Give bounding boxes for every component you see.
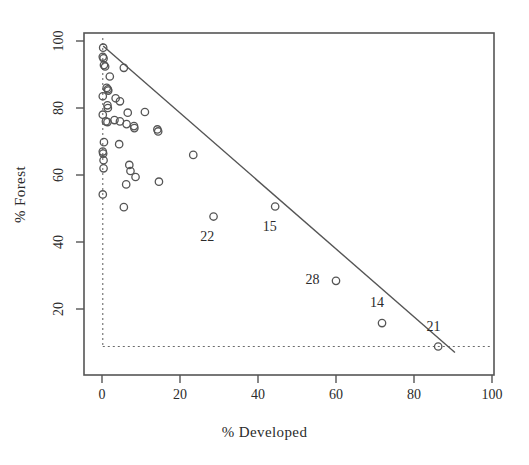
point-label-21: 21 <box>427 319 441 335</box>
point-label-22: 22 <box>200 229 214 245</box>
point-label-14: 14 <box>370 295 384 311</box>
y-tick-label-20: 20 <box>51 296 67 322</box>
x-tick-label-0: 0 <box>99 387 106 403</box>
y-tick-label-100: 100 <box>51 28 67 54</box>
y-tick-label-60: 60 <box>51 162 67 188</box>
boundary-line <box>103 46 455 353</box>
x-tick-label-80: 80 <box>407 387 421 403</box>
y-tick-label-80: 80 <box>51 95 67 121</box>
x-tick-label-100: 100 <box>482 387 503 403</box>
point-label-28: 28 <box>306 272 320 288</box>
y-tick-label-40: 40 <box>51 229 67 255</box>
y-axis-title: % Forest <box>12 135 29 255</box>
x-axis-title: % Developed <box>0 424 529 441</box>
x-tick-label-20: 20 <box>173 387 187 403</box>
point-label-15: 15 <box>263 219 277 235</box>
scatter-plot-figure: % Developed % Forest 0204060801002040608… <box>0 0 529 465</box>
data-points <box>99 44 442 350</box>
x-tick-label-60: 60 <box>329 387 343 403</box>
x-tick-label-40: 40 <box>251 387 265 403</box>
dashed-reference-lines <box>103 38 490 347</box>
